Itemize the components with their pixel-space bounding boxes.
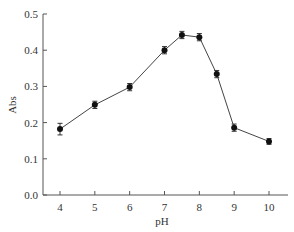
y-tick-label: 0.5 — [24, 8, 38, 20]
y-tick-label: 0.3 — [24, 80, 38, 92]
x-axis: 45678910 — [43, 191, 288, 213]
y-tick-label: 0.1 — [24, 153, 38, 165]
x-tick-label: 10 — [264, 201, 276, 213]
x-tick-label: 8 — [197, 201, 203, 213]
x-tick-label: 9 — [231, 201, 237, 213]
circle-marker-icon — [231, 125, 237, 131]
x-tick-label: 4 — [57, 201, 63, 213]
y-tick-label: 0.0 — [24, 189, 38, 201]
circle-marker-icon — [266, 138, 272, 144]
x-tick-label: 6 — [127, 201, 133, 213]
y-tick-label: 0.2 — [24, 117, 38, 129]
circle-marker-icon — [214, 71, 220, 77]
x-tick-label: 5 — [92, 201, 98, 213]
data-point — [196, 34, 202, 41]
data-point — [266, 138, 272, 144]
circle-marker-icon — [57, 126, 63, 132]
data-point — [57, 123, 63, 135]
circle-marker-icon — [127, 84, 133, 90]
y-tick-label: 0.4 — [24, 44, 38, 56]
y-axis: 0.00.10.20.30.40.5 — [24, 8, 47, 201]
circle-marker-icon — [179, 32, 185, 38]
y-axis-label: Abs — [6, 96, 18, 114]
line-chart: 0.00.10.20.30.40.5 45678910 pH Abs — [0, 0, 294, 232]
circle-marker-icon — [196, 34, 202, 40]
x-tick-label: 7 — [162, 201, 168, 213]
circle-marker-icon — [162, 47, 168, 53]
plot-area — [57, 31, 272, 144]
data-point — [214, 70, 220, 77]
data-point — [231, 124, 237, 131]
data-point — [179, 31, 185, 38]
data-point — [92, 101, 98, 108]
x-axis-label: pH — [155, 215, 169, 227]
circle-marker-icon — [92, 102, 98, 108]
